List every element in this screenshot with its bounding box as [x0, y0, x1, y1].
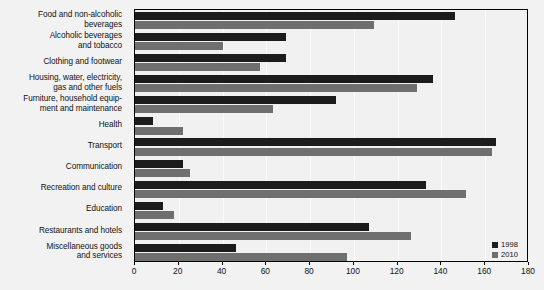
bar-2010-7: [135, 169, 190, 177]
x-tick: [265, 262, 266, 265]
bar-1998-1: [135, 33, 286, 41]
bar-1998-11: [135, 244, 236, 252]
gridline: [441, 10, 442, 261]
bar-2010-11: [135, 253, 347, 261]
x-tick-label: 0: [132, 266, 137, 276]
category-label: Communication: [66, 162, 122, 172]
x-axis-ticks: [134, 262, 528, 268]
category-label: Recreation and culture: [41, 183, 122, 193]
chart-legend: 1998 2010: [492, 240, 536, 260]
bar-2010-10: [135, 232, 411, 240]
legend-swatch-1998-icon: [492, 242, 498, 248]
x-tick-label: 80: [304, 266, 313, 276]
plot-area: [134, 9, 528, 262]
bar-1998-10: [135, 223, 369, 231]
x-tick: [222, 262, 223, 265]
bar-1998-7: [135, 160, 183, 168]
category-axis-labels: Food and non-alcoholic beveragesAlcoholi…: [0, 9, 128, 262]
x-tick: [134, 262, 135, 265]
legend-item-2010: 2010: [492, 250, 536, 260]
bar-2010-8: [135, 190, 466, 198]
category-label: Furniture, household equip- ment and mai…: [23, 94, 122, 113]
category-label: Health: [99, 120, 122, 130]
x-tick: [440, 262, 441, 265]
gridline: [398, 10, 399, 261]
x-tick: [484, 262, 485, 265]
bar-1998-0: [135, 12, 455, 20]
x-tick-label: 40: [217, 266, 226, 276]
x-tick: [397, 262, 398, 265]
bar-1998-6: [135, 138, 496, 146]
bar-2010-6: [135, 148, 492, 156]
legend-swatch-2010-icon: [492, 252, 498, 258]
category-label: Food and non-alcoholic beverages: [38, 10, 122, 29]
x-tick: [528, 262, 529, 265]
x-tick: [178, 262, 179, 265]
x-tick-label: 120: [390, 266, 404, 276]
category-label: Education: [86, 204, 122, 214]
bar-2010-2: [135, 63, 260, 71]
x-tick-label: 140: [433, 266, 447, 276]
legend-label-1998: 1998: [501, 240, 518, 250]
bar-2010-3: [135, 84, 417, 92]
x-tick-label: 180: [521, 266, 535, 276]
bar-1998-2: [135, 54, 286, 62]
bar-1998-3: [135, 75, 433, 83]
bar-1998-9: [135, 202, 163, 210]
category-label: Clothing and footwear: [43, 57, 122, 67]
bar-2010-0: [135, 21, 374, 29]
bar-2010-1: [135, 42, 223, 50]
gridline: [485, 10, 486, 261]
category-label: Miscellaneous goods and services: [46, 242, 122, 261]
bar-2010-4: [135, 105, 273, 113]
bar-2010-9: [135, 211, 174, 219]
legend-label-2010: 2010: [501, 250, 518, 260]
category-label: Alcoholic beverages and tobacco: [50, 31, 122, 50]
bar-1998-8: [135, 181, 426, 189]
bar-1998-4: [135, 96, 336, 104]
x-tick: [353, 262, 354, 265]
x-tick: [309, 262, 310, 265]
category-label: Restaurants and hotels: [39, 226, 122, 236]
bar-chart: Food and non-alcoholic beveragesAlcoholi…: [0, 0, 544, 290]
category-label: Housing, water, electricity, gas and oth…: [29, 73, 122, 92]
bar-1998-5: [135, 117, 153, 125]
legend-item-1998: 1998: [492, 240, 536, 250]
x-tick-label: 20: [173, 266, 182, 276]
x-tick-label: 160: [477, 266, 491, 276]
x-tick-label: 60: [261, 266, 270, 276]
category-label: Transport: [88, 141, 122, 151]
x-tick-label: 100: [346, 266, 360, 276]
bar-2010-5: [135, 127, 183, 135]
